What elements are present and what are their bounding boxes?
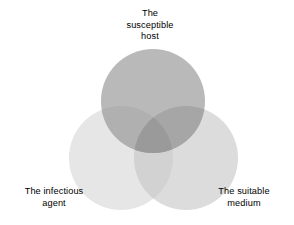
- label-infectious-agent: The infectious agent: [2, 186, 106, 209]
- label-susceptible-host: The susceptible host: [108, 8, 192, 43]
- venn-diagram: The susceptible host The infectious agen…: [0, 0, 294, 225]
- label-suitable-medium: The suitable medium: [196, 186, 292, 209]
